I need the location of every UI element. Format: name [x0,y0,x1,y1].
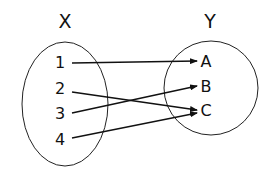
mapping-diagram: X Y 1 2 3 4 A B C [0,0,270,176]
arrow-3-to-b [72,86,197,113]
domain-element-4: 4 [55,130,65,149]
domain-label: X [58,10,71,32]
arrow-1-to-a [72,61,197,63]
domain-element-3: 3 [55,104,65,123]
codomain-element-c: C [200,101,211,120]
arrow-4-to-c [72,113,197,138]
domain-element-1: 1 [55,53,65,72]
domain-element-2: 2 [55,79,65,98]
codomain-element-b: B [201,77,212,96]
codomain-element-a: A [201,52,212,71]
codomain-label: Y [203,10,216,32]
arrow-2-to-c [72,92,197,110]
